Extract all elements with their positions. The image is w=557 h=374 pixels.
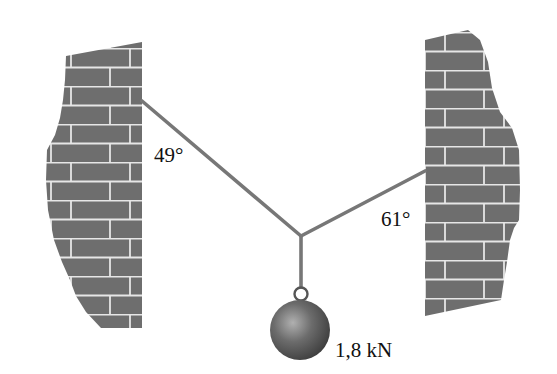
weight-ball: [270, 300, 330, 360]
cables: [142, 101, 425, 287]
hook-ring: [295, 288, 308, 301]
left-cable: [142, 101, 301, 236]
weight-label: 1,8 kN: [335, 338, 392, 362]
diagram: 49° 61° 1,8 kN: [0, 0, 557, 374]
right-brick-wall: [425, 30, 520, 316]
left-brick-wall: [46, 42, 142, 328]
left-angle-label: 49°: [154, 143, 183, 167]
right-angle-label: 61°: [381, 207, 410, 231]
